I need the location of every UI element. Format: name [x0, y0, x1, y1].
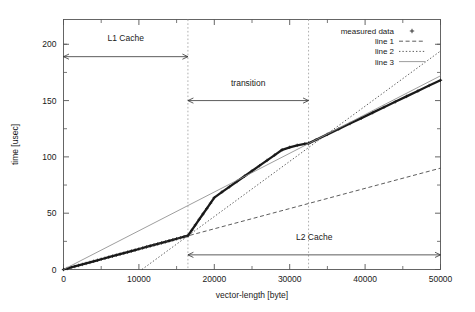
x-tick-label: 50000 [429, 274, 453, 284]
x-tick-label: 40000 [353, 274, 377, 284]
y-tick-label: 150 [42, 96, 56, 106]
annotation-label: transition [231, 78, 266, 88]
chart-figure: 01000020000300004000050000 050100150200 … [0, 0, 475, 312]
legend-label-line-3: line 3 [375, 58, 395, 67]
legend-label-line-2: line 2 [375, 47, 395, 56]
y-tick-label: 200 [42, 39, 56, 49]
y-tick-label: 100 [42, 152, 56, 162]
x-tick-label: 0 [61, 274, 66, 284]
annotation-label: L2 Cache [296, 232, 333, 242]
x-tick-label: 10000 [127, 274, 151, 284]
annotation-label: L1 Cache [108, 33, 145, 43]
legend-label-line-1: line 1 [375, 37, 395, 46]
y-axis-title: time [usec] [10, 124, 20, 165]
y-tick-label: 50 [47, 208, 57, 218]
y-tick-label: 0 [52, 265, 57, 275]
x-axis-title: vector-length [byte] [216, 290, 288, 300]
x-tick-label: 20000 [202, 274, 226, 284]
cache-timing-chart: 01000020000300004000050000 050100150200 … [0, 0, 475, 312]
legend-label-measured-data: measured data [341, 27, 395, 36]
x-tick-label: 30000 [278, 274, 302, 284]
